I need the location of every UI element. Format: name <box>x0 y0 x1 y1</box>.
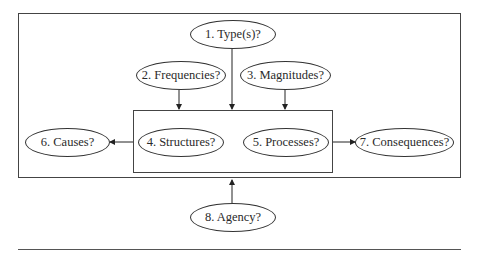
node-consequences: 7. Consequences? <box>355 128 454 157</box>
node-types: 1. Type(s)? <box>190 20 276 49</box>
node-causes: 6. Causes? <box>25 128 110 157</box>
node-magnitudes: 3. Magnitudes? <box>240 61 331 90</box>
bottom-rule <box>18 249 461 250</box>
node-structures: 4. Structures? <box>138 128 224 157</box>
node-processes: 5. Processes? <box>243 128 329 157</box>
node-frequencies: 2. Frequencies? <box>136 61 226 90</box>
node-agency: 8. Agency? <box>190 203 276 232</box>
